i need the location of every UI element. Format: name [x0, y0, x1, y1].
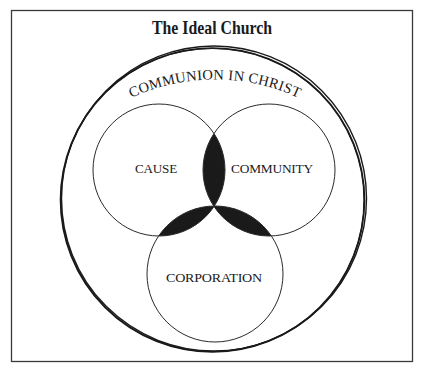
label-cause: CAUSE: [135, 161, 177, 176]
label-corporation: CORPORATION: [166, 270, 263, 285]
label-community: COMMUNITY: [231, 161, 314, 176]
diagram-title: The Ideal Church: [152, 17, 272, 38]
ideal-church-diagram: The Ideal Church COMMUNION IN CHRIST: [0, 0, 424, 368]
